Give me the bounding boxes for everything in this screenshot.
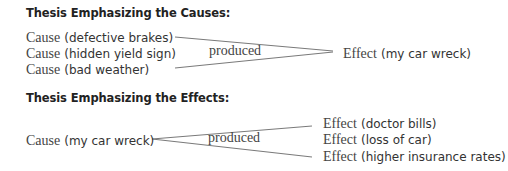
cause-detail: (defective brakes) [64,31,173,45]
effect-prefix: Effect [323,149,357,164]
cause-item: Cause (my car wreck) [26,131,154,149]
effect-prefix: Effect [323,116,357,131]
effect-detail: (loss of car) [361,133,432,147]
effect-detail: (doctor bills) [361,117,437,131]
cause-prefix: Cause [26,46,60,61]
cause-item: Cause (bad weather) [26,60,149,78]
cause-detail: (my car wreck) [64,134,154,148]
cause-detail: (hidden yield sign) [64,47,176,61]
produced-label: produced [209,43,261,59]
causes-section-title: Thesis Emphasizing the Causes: [26,6,230,20]
effect-prefix: Effect [343,46,377,61]
cause-detail: (bad weather) [64,63,149,77]
cause-prefix: Cause [26,30,60,45]
effect-item: Effect (higher insurance rates) [323,147,506,165]
effect-detail: (my car wreck) [381,47,471,61]
effects-section-title: Thesis Emphasizing the Effects: [26,91,229,105]
effect-item: Effect (loss of car) [323,130,432,148]
effect-detail: (higher insurance rates) [361,150,506,164]
effect-item: Effect (my car wreck) [343,44,471,62]
produced-label: produced [208,130,260,146]
cause-prefix: Cause [26,62,60,77]
effect-prefix: Effect [323,132,357,147]
cause-prefix: Cause [26,133,60,148]
